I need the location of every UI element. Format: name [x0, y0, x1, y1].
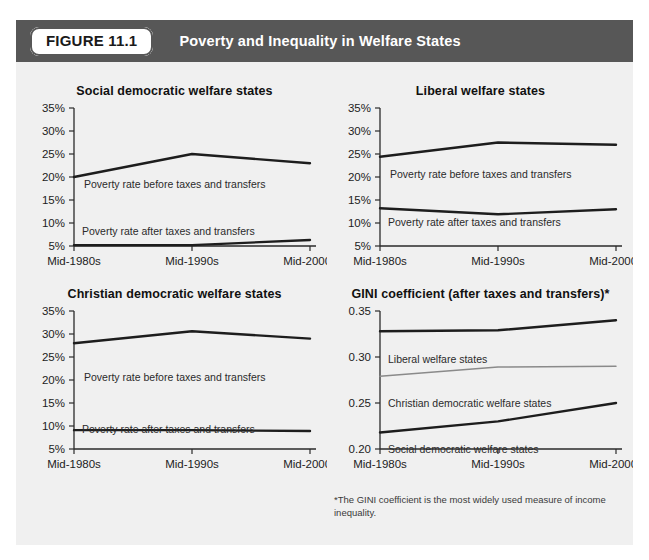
y-tick-label: 25%	[42, 351, 65, 363]
series-annotation: Christian democratic welfare states	[388, 397, 551, 409]
x-tick-label: Mid-1980s	[353, 255, 407, 267]
series-line	[74, 240, 310, 245]
x-tick-label: Mid-2000s	[283, 458, 327, 470]
chart-christian-democratic: Christian democratic welfare states 5%10…	[22, 287, 327, 487]
y-tick-label: 10%	[348, 217, 371, 229]
series-line	[380, 366, 616, 376]
series-line	[380, 143, 616, 157]
chart-title-christian: Christian democratic welfare states	[22, 287, 327, 301]
figure-number-label: FIGURE 11.1	[46, 32, 137, 49]
y-tick-label: 10%	[42, 420, 65, 432]
y-tick-label: 5%	[354, 240, 371, 252]
x-tick-label: Mid-1980s	[47, 458, 101, 470]
chart-title-gini: GINI coefficient (after taxes and transf…	[328, 287, 633, 301]
y-tick-label: 0.20	[349, 443, 371, 455]
x-tick-label: Mid-1990s	[471, 458, 525, 470]
chart-title-liberal: Liberal welfare states	[328, 84, 633, 98]
y-tick-label: 0.30	[349, 351, 371, 363]
y-tick-label: 0.35	[349, 305, 371, 317]
y-tick-label: 30%	[42, 328, 65, 340]
x-tick-label: Mid-2000s	[283, 255, 327, 267]
x-tick-label: Mid-1990s	[165, 458, 219, 470]
y-tick-label: 35%	[42, 102, 65, 114]
figure-number-badge: FIGURE 11.1	[30, 27, 153, 56]
y-tick-label: 35%	[42, 305, 65, 317]
charts-area: Social democratic welfare states 5%10%15…	[16, 62, 633, 545]
y-tick-label: 5%	[48, 443, 65, 455]
y-tick-label: 20%	[42, 171, 65, 183]
plot-gini-coefficient: 0.200.250.300.35Mid-1980sMid-1990sMid-20…	[328, 303, 633, 485]
y-tick-label: 20%	[348, 171, 371, 183]
chart-social-democratic: Social democratic welfare states 5%10%15…	[22, 84, 327, 284]
chart-gini-coefficient: GINI coefficient (after taxes and transf…	[328, 287, 633, 487]
y-tick-label: 30%	[348, 125, 371, 137]
series-annotation: Poverty rate before taxes and transfers	[84, 178, 266, 190]
figure-header-bar: FIGURE 11.1 Poverty and Inequality in We…	[16, 20, 633, 62]
figure-root: FIGURE 11.1 Poverty and Inequality in We…	[0, 0, 649, 560]
series-line	[74, 331, 310, 343]
x-tick-label: Mid-1980s	[47, 255, 101, 267]
x-tick-label: Mid-1980s	[353, 458, 407, 470]
y-tick-label: 10%	[42, 217, 65, 229]
figure-footnote: *The GINI coefficient is the most widely…	[334, 494, 624, 520]
x-tick-label: Mid-1990s	[471, 255, 525, 267]
plot-liberal: 5%10%15%20%25%30%35%Mid-1980sMid-1990sMi…	[328, 100, 633, 282]
x-tick-label: Mid-2000s	[589, 458, 633, 470]
series-line	[380, 320, 616, 331]
y-tick-label: 0.25	[349, 397, 371, 409]
y-tick-label: 25%	[348, 148, 371, 160]
y-tick-label: 30%	[42, 125, 65, 137]
series-annotation: Poverty rate before taxes and transfers	[390, 168, 572, 180]
y-tick-label: 35%	[348, 102, 371, 114]
chart-liberal: Liberal welfare states 5%10%15%20%25%30%…	[328, 84, 633, 284]
y-tick-label: 15%	[42, 194, 65, 206]
series-annotation: Poverty rate after taxes and transfers	[388, 216, 561, 228]
plot-social-democratic: 5%10%15%20%25%30%35%Mid-1980sMid-1990sMi…	[22, 100, 327, 282]
series-annotation: Liberal welfare states	[388, 353, 487, 365]
chart-title-social: Social democratic welfare states	[22, 84, 327, 98]
plot-christian-democratic: 5%10%15%20%25%30%35%Mid-1980sMid-1990sMi…	[22, 303, 327, 485]
series-annotation: Poverty rate before taxes and transfers	[84, 371, 266, 383]
series-annotation: Social democratic welfare states	[388, 443, 539, 455]
series-annotation: Poverty rate after taxes and transfers	[82, 423, 255, 435]
figure-title: Poverty and Inequality in Welfare States	[179, 33, 460, 49]
series-line	[380, 208, 616, 214]
y-tick-label: 20%	[42, 374, 65, 386]
series-line	[74, 154, 310, 177]
x-tick-label: Mid-1990s	[165, 255, 219, 267]
y-tick-label: 15%	[42, 397, 65, 409]
y-tick-label: 25%	[42, 148, 65, 160]
y-tick-label: 15%	[348, 194, 371, 206]
x-tick-label: Mid-2000s	[589, 255, 633, 267]
series-annotation: Poverty rate after taxes and transfers	[82, 225, 255, 237]
y-tick-label: 5%	[48, 240, 65, 252]
